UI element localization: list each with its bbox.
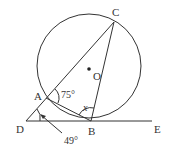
angle-label-75: 75°	[61, 89, 75, 100]
angle-label-49: 49°	[64, 135, 78, 146]
geometry-diagram: C O A D B E 75° x 49°	[0, 0, 174, 158]
label-b: B	[88, 125, 95, 137]
label-a: A	[34, 90, 42, 102]
center-dot	[87, 67, 91, 71]
circle-o	[37, 14, 141, 118]
label-d: D	[16, 123, 24, 135]
angle-arc-d	[37, 109, 40, 121]
angle-arc-a	[55, 89, 59, 103]
label-c: C	[112, 6, 119, 18]
label-o: O	[93, 70, 101, 82]
angle-label-x: x	[82, 102, 88, 113]
label-e: E	[154, 123, 161, 135]
